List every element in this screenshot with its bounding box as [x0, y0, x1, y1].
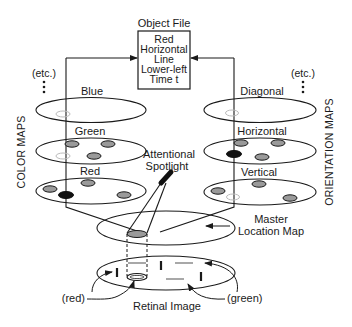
map-label-diagonal: Diagonal [240, 85, 283, 97]
attentional-spotlight: Attentional Spotlight [127, 148, 195, 233]
feature-spot [117, 192, 131, 198]
red-annotation: (red) [62, 292, 85, 304]
feature-spot [81, 180, 95, 186]
map-label-blue: Blue [81, 85, 103, 97]
retinal-image-label: Retinal Image [133, 300, 201, 312]
orientation-map-diagonal: Diagonal [204, 85, 316, 123]
ghost-feature [227, 194, 240, 200]
color-map-blue: Blue [36, 85, 146, 123]
feature-spot [65, 141, 79, 147]
etc-label-left: (etc.) [32, 67, 56, 79]
green-annotation: (green) [227, 292, 262, 304]
spotlight-handle [161, 172, 171, 183]
feature-integration-diagram: Object File Red Horizontal Line Lower-le… [0, 0, 352, 327]
feature-spot [255, 154, 269, 160]
ghost-feature [56, 153, 70, 159]
orientation-map-horizontal: Horizontal [204, 125, 316, 164]
spotlight-label-1: Attentional [143, 148, 195, 160]
map-label-vertical: Vertical [241, 166, 277, 178]
object-file-title: Object File [138, 17, 191, 29]
color-maps-label: COLOR MAPS [15, 115, 27, 188]
feature-spot [234, 140, 248, 146]
color-map-green: Green [36, 125, 146, 164]
active-feature-spot [59, 192, 74, 199]
master-map-label-2: Location Map [238, 225, 304, 237]
feature-spot [87, 153, 101, 159]
active-feature-spot [227, 151, 242, 158]
object-file: Object File Red Horizontal Line Lower-le… [138, 17, 191, 89]
etc-label-right: (etc.) [291, 67, 315, 79]
map-label-green: Green [75, 125, 106, 137]
orientation-maps-etc: (etc.) [291, 67, 315, 93]
color-map-red: Red [36, 165, 146, 204]
object-file-line-5: Time t [150, 73, 179, 85]
spotlight-label-2: Spotlight [146, 160, 189, 172]
orientation-map-vertical: Vertical [204, 166, 316, 205]
feature-spot [271, 140, 285, 146]
spotlight-location-spot [127, 231, 147, 238]
retinal-image: Retinal Image (red) (green) [62, 256, 263, 312]
master-map-label-1: Master [254, 213, 288, 225]
feature-spot [101, 141, 115, 147]
ghost-feature [56, 111, 70, 117]
diagram-canvas: Object File Red Horizontal Line Lower-le… [0, 0, 352, 327]
orientation-maps-label: ORIENTATION MAPS [323, 98, 335, 206]
feature-spot [252, 181, 266, 187]
feature-spot [211, 188, 225, 194]
ghost-feature [226, 110, 239, 116]
feature-spot [283, 195, 297, 201]
color-maps-etc: (etc.) [32, 67, 56, 93]
map-label-red: Red [80, 165, 100, 177]
feature-spot [43, 186, 57, 192]
map-label-horizontal: Horizontal [237, 125, 287, 137]
projection-cylinder [127, 234, 147, 276]
